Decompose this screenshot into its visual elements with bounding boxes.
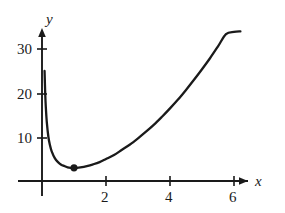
minimum-point-marker [70, 164, 77, 171]
x-tick-label-2: 2 [101, 190, 109, 205]
y-tick-label-20: 20 [8, 87, 32, 102]
function-plot-figure: 30 20 10 2 4 6 y x [0, 0, 285, 213]
x-tick-label-4: 4 [165, 190, 173, 205]
x-axis-label: x [255, 174, 262, 189]
x-axis-arrowhead [239, 177, 248, 185]
y-axis-label: y [46, 12, 53, 27]
y-tick-label-10: 10 [8, 131, 32, 146]
x-tick-label-6: 6 [229, 190, 237, 205]
data-curve [45, 31, 241, 167]
y-tick-label-30: 30 [8, 42, 32, 57]
plot-canvas [0, 0, 285, 213]
y-axis-arrowhead [38, 28, 46, 37]
